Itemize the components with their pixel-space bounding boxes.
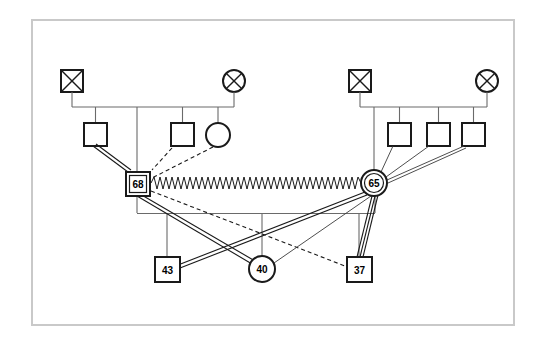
male-child-right-1[interactable] xyxy=(388,123,411,146)
index-female-65[interactable]: 65 xyxy=(361,170,387,196)
deceased-female-grandmother-right[interactable] xyxy=(476,70,498,92)
diagram-frame xyxy=(32,20,514,325)
male-child-left-2[interactable] xyxy=(171,123,194,146)
index-male-68[interactable]: 68 xyxy=(126,172,150,196)
male-child-right-3[interactable] xyxy=(462,123,485,146)
index-male-68-label: 68 xyxy=(132,179,144,190)
offspring-male-43[interactable]: 43 xyxy=(155,257,180,282)
index-female-65-label: 65 xyxy=(368,178,380,189)
offspring-male-43-label: 43 xyxy=(162,265,174,276)
male-child-right-2[interactable] xyxy=(427,123,450,146)
offspring-female-40-label: 40 xyxy=(256,264,268,275)
genogram-svg: 68 65 43 40 37 xyxy=(0,0,546,345)
offspring-female-40[interactable]: 40 xyxy=(249,256,275,282)
deceased-female-grandmother-left[interactable] xyxy=(223,70,245,92)
offspring-male-37[interactable]: 37 xyxy=(347,257,372,282)
deceased-male-grandfather-right[interactable] xyxy=(349,70,371,92)
female-child-left-3[interactable] xyxy=(206,123,230,147)
deceased-male-grandfather-left[interactable] xyxy=(61,70,83,92)
offspring-male-37-label: 37 xyxy=(354,265,366,276)
genogram-canvas: 68 65 43 40 37 xyxy=(0,0,546,345)
male-child-left-1[interactable] xyxy=(84,123,107,146)
